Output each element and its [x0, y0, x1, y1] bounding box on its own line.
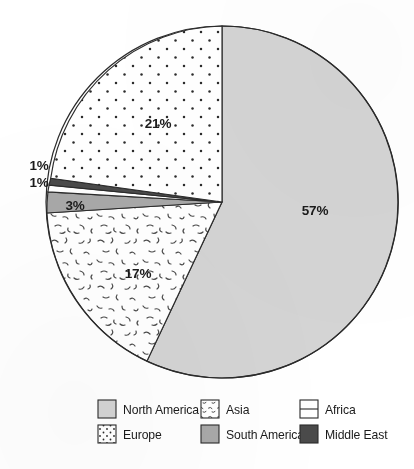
legend-item-south-america: South America — [201, 425, 304, 443]
slice-label-asia: 17% — [125, 266, 152, 281]
legend-label-asia: Asia — [226, 403, 250, 417]
legend-label-north-america: North America — [123, 403, 199, 417]
legend-label-africa: Africa — [325, 403, 356, 417]
legend-label-middle-east: Middle East — [325, 428, 388, 442]
slice-label-south-america: 3% — [65, 198, 84, 213]
legend-item-asia: Asia — [201, 400, 250, 418]
pie-slices — [46, 26, 398, 378]
legend-swatch-north-america — [98, 400, 116, 418]
legend-swatch-europe — [98, 425, 116, 443]
pie-slice-europe — [51, 26, 222, 202]
legend-swatch-asia — [201, 400, 219, 418]
legend-label-europe: Europe — [123, 428, 162, 442]
legend-item-middle-east: Middle East — [300, 425, 388, 443]
slice-label-north-america: 57% — [302, 203, 329, 218]
legend-item-north-america: North America — [98, 400, 199, 418]
slice-label-europe: 21% — [145, 116, 172, 131]
pie-chart-figure: 57% 21% 17% 3% 1% 1% North America Asia … — [0, 0, 414, 469]
chart-legend: North America Asia Africa Europe South A… — [98, 400, 388, 443]
legend-item-africa: Africa — [300, 400, 356, 418]
legend-label-south-america: South America — [226, 428, 304, 442]
legend-swatch-south-america — [201, 425, 219, 443]
slice-label-middle-east: 1% — [29, 158, 48, 173]
legend-swatch-middle-east — [300, 425, 318, 443]
pie-chart-canvas: 57% 21% 17% 3% 1% 1% North America Asia … — [0, 0, 414, 469]
slice-label-africa: 1% — [29, 175, 48, 190]
legend-item-europe: Europe — [98, 425, 162, 443]
